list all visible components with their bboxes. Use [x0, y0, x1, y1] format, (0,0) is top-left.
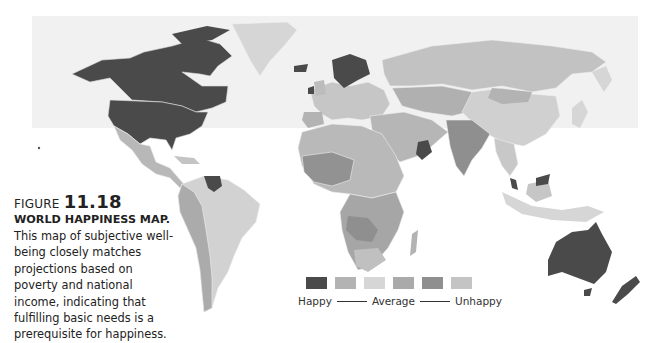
- legend-swatch-6: [451, 277, 472, 289]
- legend-swatch-5: [422, 277, 443, 289]
- caribbean: [174, 156, 200, 164]
- map-legend: Happy Average Unhappy: [306, 277, 502, 307]
- hawaii: [38, 147, 40, 149]
- figure-label-text: FIGURE: [14, 197, 60, 211]
- malaysia: [510, 178, 518, 190]
- madagascar: [410, 230, 418, 256]
- figure-title: WORLD HAPPINESS MAP.: [14, 213, 179, 226]
- legend-swatch-4: [393, 277, 414, 289]
- legend-swatches: [306, 277, 502, 289]
- legend-swatch-1: [306, 277, 327, 289]
- figure-number: 11.18: [64, 191, 122, 212]
- figure-body-text: This map of subjective well-being closel…: [14, 228, 179, 343]
- legend-label-unhappy: Unhappy: [455, 295, 502, 307]
- legend-label-happy: Happy: [298, 295, 332, 307]
- legend-swatch-3: [364, 277, 385, 289]
- legend-divider-line: [420, 301, 450, 302]
- legend-divider-line: [337, 301, 367, 302]
- legend-scale-labels: Happy Average Unhappy: [298, 295, 502, 307]
- australia: [548, 222, 612, 284]
- figure-caption: FIGURE 11.18 WORLD HAPPINESS MAP. This m…: [14, 191, 179, 343]
- africa-sahel: [302, 152, 354, 186]
- figure-label: FIGURE 11.18: [14, 191, 179, 212]
- british-isles: [314, 80, 326, 96]
- indonesia: [502, 192, 604, 222]
- new-zealand: [612, 276, 640, 304]
- legend-swatch-2: [335, 277, 356, 289]
- tasmania: [584, 288, 592, 296]
- legend-label-average: Average: [372, 295, 415, 307]
